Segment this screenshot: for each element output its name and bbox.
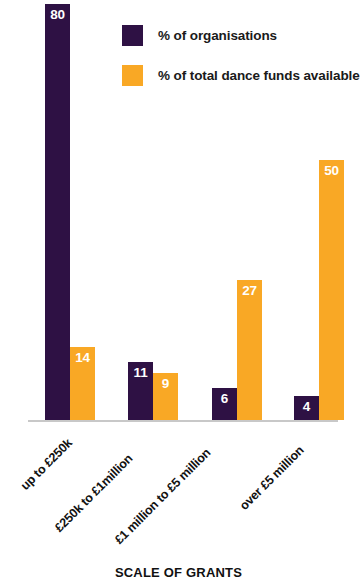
- plot-area: 80 14 11 9 6 27 4: [0, 0, 357, 421]
- bar-value-dance-funds-0: 14: [70, 350, 95, 365]
- x-axis-label-over-5million: over £5 million: [237, 443, 307, 513]
- bar-organisations-2[interactable]: 6: [212, 388, 237, 420]
- bar-group-over-5million: 4 50: [294, 0, 344, 421]
- bar-value-dance-funds-2: 27: [237, 283, 262, 298]
- bar-dance-funds-1[interactable]: 9: [153, 373, 178, 420]
- bar-value-organisations-3: 4: [294, 399, 319, 414]
- bar-value-organisations-1: 11: [128, 365, 153, 380]
- bar-dance-funds-3[interactable]: 50: [319, 160, 344, 420]
- x-axis-labels: up to £250k £250k to £1million £1 millio…: [0, 421, 357, 551]
- bar-dance-funds-2[interactable]: 27: [237, 280, 262, 420]
- bar-value-dance-funds-1: 9: [153, 376, 178, 391]
- bar-organisations-0[interactable]: 80: [45, 4, 70, 420]
- bar-organisations-1[interactable]: 11: [128, 362, 153, 420]
- bar-organisations-3[interactable]: 4: [294, 396, 319, 420]
- x-axis-label-250k-to-1million: £250k to £1million: [52, 451, 136, 535]
- bar-group-up-to-250k: 80 14: [45, 0, 95, 421]
- x-axis-title: SCALE OF GRANTS: [0, 565, 357, 579]
- bar-value-organisations-0: 80: [45, 7, 70, 22]
- bar-value-organisations-2: 6: [212, 391, 237, 406]
- x-axis-label-up-to-250k: up to £250k: [18, 436, 75, 493]
- bar-value-dance-funds-3: 50: [319, 163, 344, 178]
- bar-group-1million-to-5million: 6 27: [212, 0, 262, 421]
- bar-group-250k-to-1million: 11 9: [128, 0, 178, 421]
- bar-dance-funds-0[interactable]: 14: [70, 347, 95, 420]
